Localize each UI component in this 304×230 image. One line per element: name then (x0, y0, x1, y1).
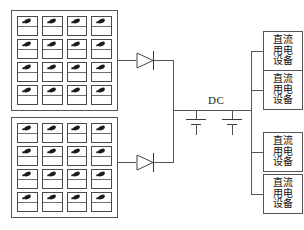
load-label-char: 设 (273, 199, 283, 210)
solar-cell-upper-half (43, 40, 62, 50)
solar-cell-icon (98, 171, 106, 177)
solar-cell-icon (73, 171, 81, 177)
load-label-column-right: 流电备 (283, 136, 293, 168)
load-label-char: 设 (273, 56, 283, 67)
solar-cell-upper-half (18, 193, 37, 203)
solar-cell (67, 85, 88, 105)
solar-cell-lower-half (18, 203, 37, 212)
solar-cell (17, 123, 38, 143)
solar-cell-icon (98, 64, 106, 70)
solar-cell-lower-half (68, 180, 87, 189)
capacitor-1-bottom-lead (196, 124, 197, 135)
solar-cell-lower-half (43, 50, 62, 59)
solar-cell (91, 169, 112, 189)
solar-cell-lower-half (68, 157, 87, 166)
load-label-char: 设 (273, 157, 283, 168)
solar-cell (91, 146, 112, 166)
dc-load-equipment-3: 流电备直用设 (263, 132, 303, 172)
solar-cell-upper-half (18, 170, 37, 180)
wire-tap-load-3 (251, 152, 263, 153)
solar-cell-upper-half (43, 193, 62, 203)
wire-upper-array-to-diode (118, 60, 136, 61)
solar-cell-lower-half (18, 96, 37, 105)
solar-cell (17, 39, 38, 59)
solar-cell (91, 123, 112, 143)
solar-cell-upper-half (92, 17, 111, 27)
solar-cell-lower-half (68, 27, 87, 36)
solar-cell-upper-half (68, 63, 87, 73)
solar-cell-lower-half (18, 27, 37, 36)
solar-cell-lower-half (68, 73, 87, 82)
solar-cell-upper-half (68, 124, 87, 134)
dc-load-equipment-1: 流电备直用设 (263, 31, 303, 71)
solar-cell-upper-half (18, 17, 37, 27)
capacitor-1-top-lead (196, 110, 197, 119)
solar-cell-icon (98, 194, 106, 200)
solar-cell (67, 169, 88, 189)
load-label-column-left: 直用设 (273, 178, 283, 210)
solar-cell (42, 39, 63, 59)
load-label-column-left: 直用设 (273, 74, 283, 106)
solar-cell-upper-half (18, 40, 37, 50)
solar-cell-lower-half (92, 180, 111, 189)
solar-cell-upper-half (92, 124, 111, 134)
solar-cell-upper-half (68, 40, 87, 50)
solar-cell-lower-half (92, 27, 111, 36)
load-label-column-left: 直用设 (273, 136, 283, 168)
solar-cell-upper-half (92, 170, 111, 180)
solar-cell-icon (48, 87, 56, 93)
solar-cell-icon (73, 87, 81, 93)
dc-load-equipment-4: 流电备直用设 (263, 174, 303, 214)
load-label-column-right: 流电备 (283, 74, 293, 106)
solar-cell-upper-half (18, 86, 37, 96)
solar-cell-icon (23, 41, 31, 47)
solar-cell-lower-half (68, 96, 87, 105)
solar-cell-icon (73, 148, 81, 154)
solar-cell-icon (73, 194, 81, 200)
solar-cell-lower-half (43, 96, 62, 105)
solar-cell (67, 16, 88, 36)
solar-cell-icon (23, 148, 31, 154)
wire-upper-diode-to-riser (154, 60, 173, 61)
solar-cell-upper-half (43, 63, 62, 73)
wire-lower-diode-to-riser (154, 162, 173, 163)
solar-cell (42, 123, 63, 143)
solar-cell-lower-half (43, 27, 62, 36)
load-label-column-right: 流电备 (283, 35, 293, 67)
solar-cell-upper-half (68, 17, 87, 27)
solar-cell-icon (73, 41, 81, 47)
upper-solar-array-grid (17, 16, 112, 105)
solar-cell-icon (48, 125, 56, 131)
solar-cell-icon (23, 18, 31, 24)
lower-solar-array (11, 117, 118, 218)
solar-cell-icon (48, 171, 56, 177)
upper-solar-array (11, 10, 118, 111)
solar-cell-icon (73, 125, 81, 131)
solar-cell-icon (23, 87, 31, 93)
capacitor-2-top-lead (232, 110, 233, 119)
solar-cell-lower-half (43, 157, 62, 166)
solar-cell-lower-half (18, 180, 37, 189)
load-label-char: 备 (283, 157, 293, 168)
solar-cell-upper-half (68, 86, 87, 96)
solar-cell-icon (98, 148, 106, 154)
load-label-char: 备 (283, 56, 293, 67)
solar-cell-icon (98, 125, 106, 131)
wire-tap-load-2 (251, 90, 263, 91)
load-label-char: 备 (283, 95, 293, 106)
solar-cell-icon (23, 64, 31, 70)
solar-cell-lower-half (92, 73, 111, 82)
solar-cell-upper-half (68, 147, 87, 157)
load-label-column-left: 直用设 (273, 35, 283, 67)
load-distribution-bus (251, 51, 252, 194)
solar-cell-upper-half (92, 193, 111, 203)
solar-cell (91, 85, 112, 105)
solar-cell-lower-half (92, 157, 111, 166)
wire-lower-array-to-diode (118, 162, 136, 163)
solar-cell-upper-half (68, 170, 87, 180)
solar-cell-lower-half (18, 73, 37, 82)
wire-tap-load-4 (251, 194, 263, 195)
solar-cell (42, 192, 63, 212)
solar-cell-lower-half (43, 134, 62, 143)
solar-cell (17, 146, 38, 166)
